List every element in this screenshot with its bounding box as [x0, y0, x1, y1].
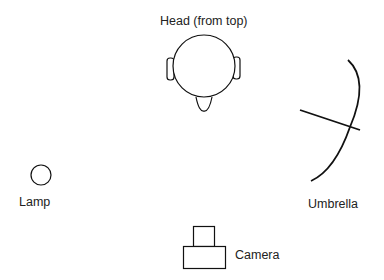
diagram-canvas	[0, 0, 384, 280]
camera-icon	[184, 227, 226, 269]
umbrella-label: Umbrella	[308, 198, 358, 211]
head-label: Head (from top)	[160, 15, 248, 28]
nose-icon	[196, 97, 212, 111]
umbrella-shaft	[300, 110, 360, 130]
head-shape	[167, 35, 240, 111]
camera-label: Camera	[235, 249, 279, 262]
lamp-label: Lamp	[19, 196, 50, 209]
umbrella-shape	[300, 60, 360, 181]
umbrella-arc	[311, 60, 360, 181]
lamp-icon	[31, 165, 51, 185]
head-circle	[173, 35, 235, 97]
